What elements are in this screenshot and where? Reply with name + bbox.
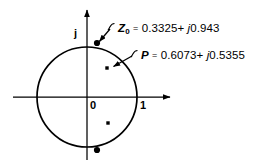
z0-imag-part: 0.943 xyxy=(190,22,219,34)
p-imag-part: 0.5355 xyxy=(209,49,245,61)
origin-label: 0 xyxy=(90,100,96,111)
cross-lower xyxy=(106,121,109,124)
p-cross-upper xyxy=(105,66,108,69)
imaginary-axis-label: j xyxy=(74,28,77,39)
real-unit-label: 1 xyxy=(140,100,146,111)
complex-plane-figure: j 0 1 Z0 = 0.3325+ j0.943 P = 0.6073+ j0… xyxy=(0,0,267,168)
p-real-part: 0.6073 xyxy=(161,49,197,61)
p-symbol: P xyxy=(141,49,149,61)
z0-leader-line xyxy=(108,24,115,31)
z0-annotation: Z0 = 0.3325+ j0.943 xyxy=(118,23,219,36)
z0-subscript: 0 xyxy=(125,27,130,36)
bottom-dot xyxy=(94,147,100,153)
p-annotation: P = 0.6073+ j0.5355 xyxy=(141,50,245,62)
z0-leader-arrow xyxy=(99,29,110,42)
z0-plus-sign: + xyxy=(177,22,184,34)
p-leader-arrow xyxy=(114,56,133,67)
z0-real-part: 0.3325 xyxy=(142,22,178,34)
p-plus-sign: + xyxy=(197,49,204,61)
p-equals: = xyxy=(152,50,157,60)
z0-equals: = xyxy=(133,23,138,33)
